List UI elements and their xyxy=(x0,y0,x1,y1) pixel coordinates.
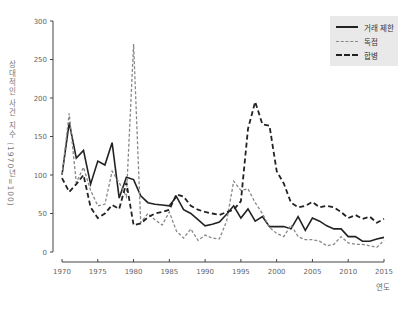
solid-line-icon xyxy=(336,26,358,28)
legend: 거래 제한 독점 합병 xyxy=(330,16,398,66)
legend-item-trade-restraint: 거래 제한 xyxy=(336,21,394,33)
heavy-dashed-line-icon xyxy=(336,54,358,56)
y-axis: 050100150200250300 xyxy=(34,18,53,257)
x-axis-label: 연도 xyxy=(376,281,390,292)
y-tick-label: 150 xyxy=(34,133,47,141)
y-tick-label: 300 xyxy=(34,18,47,26)
legend-item-merger: 합병 xyxy=(336,49,378,61)
x-tick-label: 1975 xyxy=(89,268,107,276)
x-tick-label: 1980 xyxy=(125,268,143,276)
y-tick-label: 50 xyxy=(38,210,47,218)
series-line xyxy=(62,102,384,225)
y-tick-label: 100 xyxy=(34,172,47,180)
y-tick-label: 200 xyxy=(34,95,47,103)
legend-label: 거래 제한 xyxy=(364,22,394,33)
legend-label: 합병 xyxy=(364,50,378,61)
series-lines xyxy=(62,44,384,247)
x-tick-label: 1995 xyxy=(232,268,250,276)
x-axis: 1970197519801985199019952000200520102015 xyxy=(53,259,393,276)
legend-item-monopoly: 독점 xyxy=(336,35,378,47)
light-dashed-line-icon xyxy=(336,41,358,42)
y-tick-label: 0 xyxy=(43,249,47,257)
x-tick-label: 1970 xyxy=(53,268,71,276)
y-axis-label: 상대적인 사건 지수 (1970년=100) xyxy=(6,60,16,207)
legend-label: 독점 xyxy=(364,36,378,47)
x-tick-label: 2005 xyxy=(304,268,322,276)
x-tick-label: 2000 xyxy=(268,268,286,276)
x-tick-label: 1990 xyxy=(196,268,214,276)
x-tick-label: 1985 xyxy=(160,268,178,276)
y-tick-label: 250 xyxy=(34,56,47,64)
x-tick-label: 2010 xyxy=(339,268,357,276)
x-tick-label: 2015 xyxy=(375,268,393,276)
